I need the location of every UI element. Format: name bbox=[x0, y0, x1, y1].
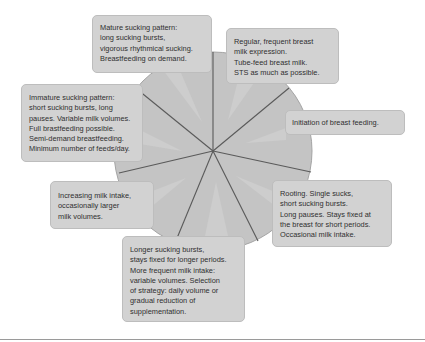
callout-regular-expression: Regular, frequent breast milk expression… bbox=[226, 28, 339, 84]
callout-mature-sucking: Mature sucking pattern: long sucking bur… bbox=[92, 15, 212, 73]
breastfeeding-stages-diagram: Mature sucking pattern: long sucking bur… bbox=[0, 0, 425, 342]
callout-longer-sucking: Longer sucking bursts, stays fixed for l… bbox=[122, 236, 245, 322]
bottom-divider bbox=[0, 339, 425, 340]
callout-immature-sucking: Immature sucking pattern: short sucking … bbox=[21, 84, 143, 162]
callout-initiation: Initiation of breast feeding. bbox=[285, 110, 405, 135]
callout-rooting: Rooting. Single sucks, short sucking bur… bbox=[272, 180, 392, 247]
callout-increasing-intake: Increasing milk intake, occasionally lar… bbox=[50, 181, 154, 229]
